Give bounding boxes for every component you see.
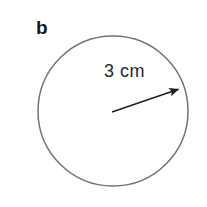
radius-measurement-label: 3 cm — [104, 61, 145, 81]
circle-diagram-svg — [0, 0, 207, 207]
radius-arrow-line — [112, 89, 178, 112]
figure-canvas: b 3 cm — [0, 0, 207, 207]
part-label-b: b — [36, 18, 48, 38]
